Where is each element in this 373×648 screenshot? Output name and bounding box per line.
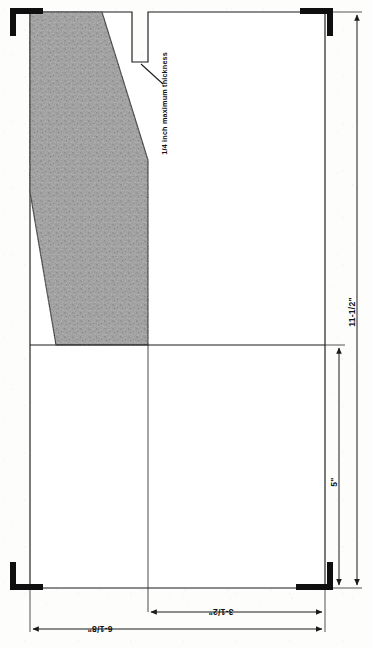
technical-drawing-canvas (0, 0, 373, 648)
drawing-sheet: 1/4 inch maximum thickness 11-1/2" 5" 3-… (0, 0, 373, 648)
thickness-note-label: 1/4 inch maximum thickness (160, 52, 169, 155)
dimension-label-height-lower: 5" (329, 477, 339, 486)
dimension-label-width-inner: 3-1/2" (209, 607, 234, 617)
dimension-label-width-total: 6-1/8" (88, 624, 113, 634)
dimension-label-height-total: 11-1/2" (347, 297, 357, 326)
